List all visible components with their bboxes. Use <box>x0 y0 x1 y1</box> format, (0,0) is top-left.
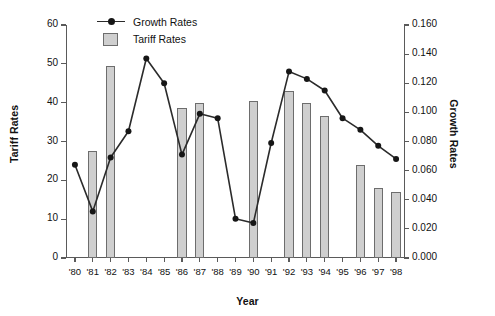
y-axis-right-tick-label: 0.140 <box>412 47 458 58</box>
data-point-marker <box>250 220 256 226</box>
data-point-marker <box>286 69 292 75</box>
line-series-growth-rates <box>66 25 405 258</box>
legend-label-tariff-rates: Tariff Rates <box>133 33 186 45</box>
x-axis-title: Year <box>0 295 495 307</box>
y-axis-right-tick-label: 0.160 <box>412 18 458 29</box>
line-marker-icon <box>96 14 126 30</box>
data-point-marker <box>161 80 167 86</box>
growth-rates-markers <box>72 55 399 226</box>
data-point-marker <box>375 143 381 149</box>
data-point-marker <box>233 216 239 222</box>
legend-label-growth-rates: Growth Rates <box>133 16 197 28</box>
data-point-marker <box>125 128 131 134</box>
data-point-marker <box>143 55 149 61</box>
y-axis-right-tick-label: 0.000 <box>412 251 458 262</box>
chart-legend: Growth Rates Tariff Rates <box>96 13 197 47</box>
y-axis-right-tick-label: 0.040 <box>412 193 458 204</box>
y-axis-left-tick-label: 40 <box>12 96 58 107</box>
y-axis-left-tick-label: 10 <box>12 212 58 223</box>
data-point-marker <box>304 76 310 82</box>
data-point-marker <box>179 152 185 158</box>
y-axis-left-tick-label: 50 <box>12 57 58 68</box>
y-axis-right-tick-label: 0.100 <box>412 105 458 116</box>
y-axis-left-tick-label: 20 <box>12 173 58 184</box>
plot-area: 0102030405060 0.0000.0200.0400.0600.0800… <box>66 25 405 258</box>
data-point-marker <box>340 115 346 121</box>
data-point-marker <box>357 127 363 133</box>
legend-item-growth-rates: Growth Rates <box>96 13 197 30</box>
data-point-marker <box>322 88 328 94</box>
data-point-marker <box>197 111 203 117</box>
y-axis-right-tick-label: 0.060 <box>412 164 458 175</box>
x-axis-tick-label: '98 <box>383 266 409 277</box>
data-point-marker <box>90 208 96 214</box>
data-point-marker <box>215 115 221 121</box>
data-point-marker <box>108 155 114 161</box>
gray-swatch-icon <box>96 31 126 47</box>
y-axis-left-tick-label: 60 <box>12 18 58 29</box>
legend-item-tariff-rates: Tariff Rates <box>96 30 197 47</box>
data-point-marker <box>393 156 399 162</box>
y-axis-left-tick-label: 30 <box>12 135 58 146</box>
y-axis-right-tick-label: 0.020 <box>412 222 458 233</box>
y-axis-right-tick-label: 0.080 <box>412 135 458 146</box>
growth-rates-polyline <box>75 58 396 223</box>
y-axis-right-tick-label: 0.120 <box>412 76 458 87</box>
data-point-marker <box>268 140 274 146</box>
chart-container: Tariff Rates Growth Rates Year 010203040… <box>0 0 495 316</box>
y-axis-left-tick-label: 0 <box>12 251 58 262</box>
data-point-marker <box>72 162 78 168</box>
